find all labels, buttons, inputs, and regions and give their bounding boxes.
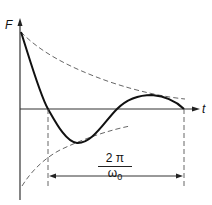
y-axis-arrowhead — [18, 18, 23, 26]
period-arrowhead-right — [176, 174, 183, 179]
omega-symbol: ω — [108, 166, 117, 180]
y-axis-label: F — [5, 19, 12, 31]
t-axis-label: t — [202, 103, 205, 115]
t-axis-arrowhead — [192, 107, 200, 112]
omega-subscript: 0 — [117, 172, 122, 182]
period-denominator: ω0 — [98, 167, 132, 184]
damped-curve — [21, 32, 184, 143]
period-arrowhead-left — [49, 174, 56, 179]
period-numerator: 2 π — [98, 152, 132, 167]
period-label: 2 π ω0 — [98, 152, 132, 184]
upper-envelope — [21, 32, 185, 99]
